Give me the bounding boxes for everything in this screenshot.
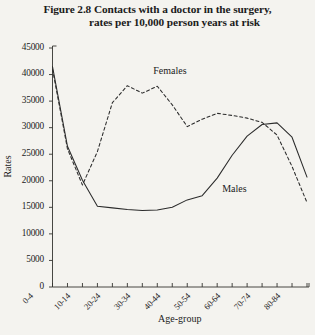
tick-marks [49,48,307,287]
series-line-females [53,69,308,202]
y-axis-tick-label: 30000 [4,121,44,131]
series-line-males [53,67,308,211]
y-axis-tick-label: 0 [4,281,44,291]
y-axis-title: Rates [2,146,13,186]
figure-chart: Figure 2.8 Contacts with a doctor in the… [0,0,315,335]
y-axis-tick-label: 45000 [4,42,44,52]
y-axis-tick-label: 35000 [4,95,44,105]
plot-area [0,0,315,335]
chart-svg [0,0,315,335]
y-axis-tick-label: 10000 [4,228,44,238]
y-axis-tick-label: 15000 [4,201,44,211]
y-axis-tick-label: 40000 [4,68,44,78]
x-axis-title: Age-group [120,313,240,324]
y-axis-tick-label: 5000 [4,254,44,264]
series-label-females: Females [153,65,186,76]
data-series-lines [53,67,308,211]
series-label-males: Males [222,183,246,194]
